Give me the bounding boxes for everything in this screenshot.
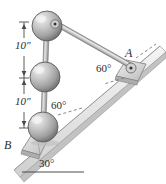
- pin-a-center: [129, 66, 132, 69]
- dimension-lines: [19, 22, 29, 128]
- sphere-middle: [30, 62, 60, 92]
- dim-arrow-bottom-up: [22, 121, 27, 126]
- pin-top-center: [54, 23, 57, 26]
- top-sphere-highlight: [36, 15, 47, 23]
- dim-arrow-top-down: [22, 24, 27, 29]
- dimension-label-lower: 10": [15, 96, 31, 107]
- statics-figure: 10" 10" 60° 60° 30° A B: [0, 0, 166, 184]
- diagonal-link-rod: [54, 21, 132, 68]
- angle-label-at-a: 60°: [96, 63, 111, 74]
- point-label-b: B: [4, 139, 11, 151]
- middle-sphere-highlight: [34, 66, 45, 74]
- dimension-label-upper: 10": [15, 40, 31, 51]
- bottom-sphere-highlight: [32, 116, 43, 124]
- angle-label-incline: 30°: [39, 158, 54, 169]
- pin-joint-top: [51, 20, 59, 28]
- pin-joint-a: [126, 63, 136, 73]
- figure-canvas: [0, 0, 166, 184]
- point-label-a: A: [125, 47, 132, 59]
- bottom-sphere-body: [28, 112, 58, 142]
- dim-arrow-mid-up: [22, 71, 27, 76]
- angle-label-rod: 60°: [51, 100, 66, 111]
- middle-sphere-body: [30, 62, 60, 92]
- diagonal-rod: [54, 21, 132, 68]
- dim-arrow-mid-down: [22, 80, 27, 85]
